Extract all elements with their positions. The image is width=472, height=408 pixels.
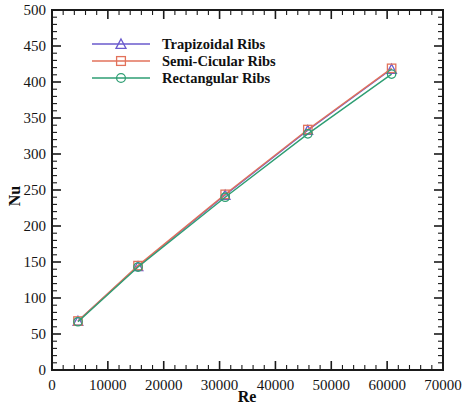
chart-figure: 0100002000030000400005000060000700000501… (0, 0, 472, 408)
data-series-layer (73, 64, 396, 326)
y-axis-title: Nu (6, 186, 23, 207)
legend-item: Rectangular Ribs (92, 70, 270, 86)
y-tick-label: 300 (24, 146, 47, 162)
y-tick-label: 0 (39, 362, 47, 378)
x-tick-label: 0 (48, 377, 56, 393)
line-chart: 0100002000030000400005000060000700000501… (0, 0, 472, 408)
legend-label: Semi-Cicular Ribs (162, 53, 276, 69)
series-square (74, 64, 396, 325)
y-tick-label: 150 (24, 254, 47, 270)
y-tick-label: 400 (24, 74, 47, 90)
series-line-path (78, 74, 392, 322)
legend-item: Semi-Cicular Ribs (92, 53, 276, 69)
x-tick-label: 10000 (89, 377, 127, 393)
y-tick-label: 200 (24, 218, 47, 234)
marker-circle (387, 70, 395, 78)
x-axis-title: Re (238, 388, 257, 405)
y-tick-label: 450 (24, 38, 47, 54)
y-tick-label: 500 (24, 2, 47, 18)
x-tick-label: 20000 (145, 377, 183, 393)
x-tick-label: 60000 (368, 377, 406, 393)
chart-legend: Trapizoidal RibsSemi-Cicular RibsRectang… (92, 36, 276, 86)
x-tick-label: 40000 (257, 377, 295, 393)
x-tick-label: 70000 (424, 377, 462, 393)
x-tick-label: 50000 (313, 377, 351, 393)
x-tick-label: 30000 (201, 377, 239, 393)
series-triangle (73, 64, 396, 325)
series-line-path (78, 68, 392, 321)
data-point-marker (387, 70, 395, 78)
legend-label: Rectangular Ribs (162, 70, 270, 86)
legend-label: Trapizoidal Ribs (162, 36, 266, 52)
y-tick-label: 100 (24, 290, 47, 306)
y-tick-label: 350 (24, 110, 47, 126)
legend-item: Trapizoidal Ribs (92, 36, 266, 52)
series-circle (74, 70, 396, 326)
y-tick-label: 50 (31, 326, 46, 342)
y-tick-label: 250 (24, 182, 47, 198)
